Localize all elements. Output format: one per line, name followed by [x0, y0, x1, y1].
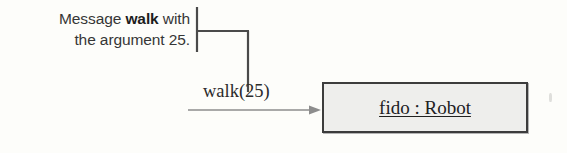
diagram-canvas: Message walk with the argument 25. walk(… [0, 0, 567, 153]
message-arrow-head [309, 106, 321, 115]
scan-speck [549, 93, 552, 102]
object-box[interactable]: fido : Robot [322, 82, 528, 133]
object-box-label: fido : Robot [379, 97, 471, 119]
